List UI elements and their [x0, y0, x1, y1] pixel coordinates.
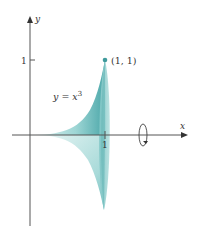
x-axis-arrow-icon	[181, 132, 188, 138]
solid-lower-surface	[30, 135, 106, 210]
point-label: (1, 1)	[111, 55, 137, 66]
solid-of-revolution-diagram: y x 1 1 (1, 1) y = x3	[0, 0, 198, 229]
y-tick-label: 1	[21, 56, 27, 66]
y-axis-arrow-icon	[27, 16, 33, 23]
y-axis-label: y	[34, 14, 41, 24]
x-tick-label: 1	[102, 140, 108, 150]
x-axis-label: x	[180, 121, 185, 131]
point-1-1	[103, 58, 108, 63]
curve-label: y = x3	[52, 90, 82, 102]
